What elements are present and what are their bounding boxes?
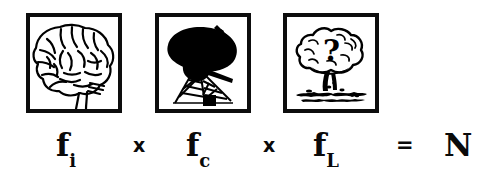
term-f-c-base: f [186, 127, 199, 163]
term-f-L: fL [313, 120, 339, 171]
term-f-c-subscript: c [199, 150, 210, 171]
term-f-i-base: f [56, 127, 69, 163]
mushroom-cloud-icon: ? [287, 17, 375, 109]
drake-equation-figure: ? fi x fc x [0, 0, 494, 171]
panel-radio-telescope [155, 13, 251, 113]
equals-operator: = [396, 120, 414, 171]
multiply-operator-2: x [263, 120, 275, 171]
term-f-L-subscript: L [326, 150, 339, 171]
term-f-i: fi [56, 120, 76, 171]
brain-icon [30, 17, 118, 109]
panel-brain [26, 13, 122, 113]
radio-telescope-icon [159, 17, 247, 109]
question-mark-glyph: ? [323, 34, 340, 68]
term-N: N [444, 120, 472, 171]
term-f-i-subscript: i [69, 150, 76, 171]
panel-mushroom-cloud: ? [283, 13, 379, 113]
multiply-operator-1: x [133, 120, 145, 171]
formula-row: fi x fc x fL = N [0, 120, 494, 171]
term-f-L-base: f [313, 127, 326, 163]
term-f-c: fc [186, 120, 210, 171]
dish-base-box [203, 95, 216, 106]
